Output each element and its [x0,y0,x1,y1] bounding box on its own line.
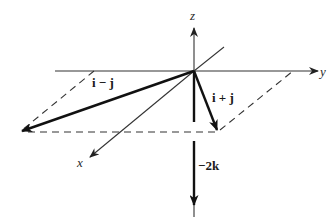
vector-i-plus-j-label: i + j [212,90,234,105]
vector-i-minus-j-label: i − j [92,75,114,90]
vector-diagram: y z x i − j i + j −2k [0,0,331,217]
z-axis-label: z [189,8,195,23]
y-axis-label: y [318,64,326,79]
x-axis-negative [194,47,224,71]
vector-minus-2k-label: −2k [198,158,220,173]
x-axis-label: x [76,155,83,170]
parallelogram-left-edge [21,71,94,131]
